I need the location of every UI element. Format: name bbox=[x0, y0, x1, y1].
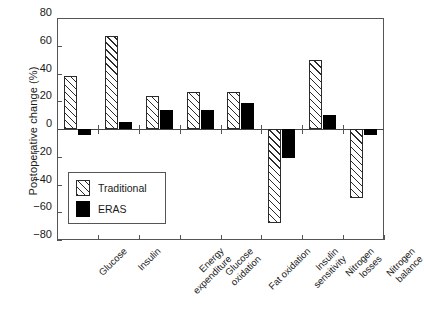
x-axis-label: Insulin bbox=[136, 246, 163, 273]
bar-eras bbox=[323, 115, 336, 129]
legend-entry-traditional: Traditional bbox=[76, 180, 147, 196]
legend-entry-eras: ERAS bbox=[76, 201, 127, 217]
x-axis-label-line: Fat oxidation bbox=[267, 246, 313, 292]
bar-eras bbox=[119, 122, 132, 129]
y-tick-label: −20 bbox=[10, 151, 52, 152]
bar-traditional bbox=[227, 92, 240, 129]
bar-eras bbox=[201, 110, 214, 129]
y-tick-label: −60 bbox=[10, 206, 52, 207]
bar-eras bbox=[241, 103, 254, 129]
bar-traditional bbox=[187, 92, 200, 129]
legend-swatch-eras bbox=[76, 201, 90, 217]
legend-swatch-traditional bbox=[76, 180, 90, 196]
bar-eras bbox=[160, 110, 173, 129]
x-axis-label: Glucoseoxidation bbox=[221, 246, 263, 288]
y-tick-label: 80 bbox=[10, 12, 52, 13]
x-axis-label: Nitrogenlosses bbox=[343, 246, 383, 286]
bar-eras bbox=[78, 129, 91, 135]
x-axis-label-line: Insulin bbox=[136, 246, 163, 273]
y-tick-label: 20 bbox=[10, 95, 52, 96]
bar-traditional bbox=[105, 36, 118, 129]
x-tick-mark bbox=[384, 235, 385, 240]
bar-traditional bbox=[64, 76, 77, 129]
y-tick-label: 60 bbox=[10, 40, 52, 41]
x-axis-label: Fat oxidation bbox=[267, 246, 313, 292]
bar-eras bbox=[364, 129, 377, 135]
bar-traditional bbox=[309, 60, 322, 129]
x-axis-label-line: Glucose bbox=[98, 246, 130, 278]
legend-label-traditional: Traditional bbox=[98, 182, 147, 194]
y-tick-label: 40 bbox=[10, 68, 52, 69]
bar-traditional bbox=[350, 129, 363, 198]
bar-eras bbox=[282, 129, 295, 158]
legend: Traditional ERAS bbox=[68, 172, 166, 224]
y-tick-mark bbox=[57, 240, 62, 241]
legend-label-eras: ERAS bbox=[98, 203, 127, 215]
bar-traditional bbox=[146, 96, 159, 129]
y-tick-label: 0 bbox=[10, 123, 52, 124]
y-tick-label: −80 bbox=[10, 234, 52, 235]
bar-traditional bbox=[268, 129, 281, 223]
y-tick-label: −40 bbox=[10, 179, 52, 180]
x-axis-label: Glucose bbox=[98, 246, 130, 278]
x-axis-label: Nitrogenbalance bbox=[384, 246, 424, 286]
